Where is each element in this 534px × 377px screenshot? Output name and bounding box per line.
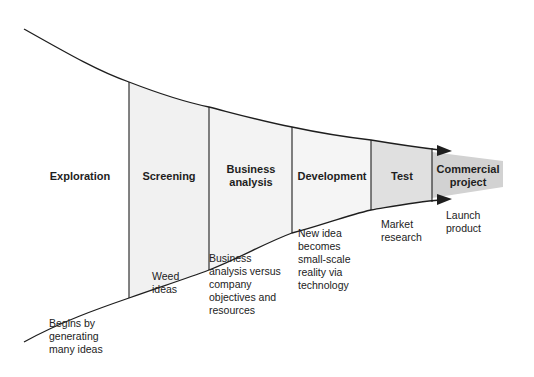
note-commercial-project: Launch product (446, 209, 481, 235)
section-test (371, 0, 432, 377)
stage-label-test: Test (372, 170, 432, 183)
note-business-analysis: Business analysis versus company objecti… (209, 252, 281, 317)
note-exploration: Begins by generating many ideas (49, 317, 103, 356)
stage-label-commercial-project: Commercial project (432, 163, 504, 189)
section-screening (129, 0, 209, 377)
note-test: Market research (381, 218, 422, 244)
stage-label-screening: Screening (132, 170, 206, 183)
stage-label-exploration: Exploration (40, 170, 120, 183)
stage-label-development: Development (292, 170, 372, 183)
section-development (292, 0, 371, 377)
note-development: New idea becomes small-scale reality via… (298, 227, 351, 292)
stage-label-business-analysis: Business analysis (212, 163, 290, 189)
note-screening: Weed ideas (152, 270, 179, 296)
